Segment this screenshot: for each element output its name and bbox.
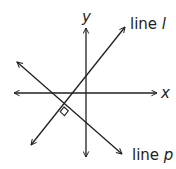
right-angle-marker [60, 107, 68, 116]
line-p-name: p [163, 146, 174, 164]
line-p-prefix: line [132, 146, 164, 164]
line-p [17, 62, 122, 154]
y-axis-label: y [81, 8, 92, 26]
line-l-name: l [162, 15, 167, 33]
line-p-label: line p [132, 146, 173, 164]
x-axis-label: x [160, 84, 170, 102]
line-l-prefix: line [130, 15, 162, 33]
line-l-label: line l [130, 15, 167, 33]
coordinate-diagram: y x line l line p [0, 0, 176, 169]
